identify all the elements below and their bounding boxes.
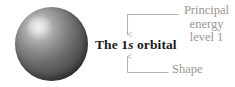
shape-leader-line (128, 57, 169, 73)
principal-energy-level-leader-line (128, 15, 179, 35)
annotation-principal-line-2: energy (180, 18, 233, 31)
annotation-principal-energy-level: Principal energy level 1 (180, 4, 233, 44)
main-caption: The 1s orbital (95, 37, 177, 53)
orbital-figure: The 1s orbital Principal energy level 1 … (0, 0, 235, 87)
annotation-principal-line-1: Principal (180, 4, 233, 17)
caption-suffix: orbital (134, 37, 177, 52)
annotation-shape: Shape (172, 63, 203, 76)
caption-prefix: The 1 (95, 37, 128, 52)
annotation-principal-line-3: level 1 (180, 31, 233, 44)
